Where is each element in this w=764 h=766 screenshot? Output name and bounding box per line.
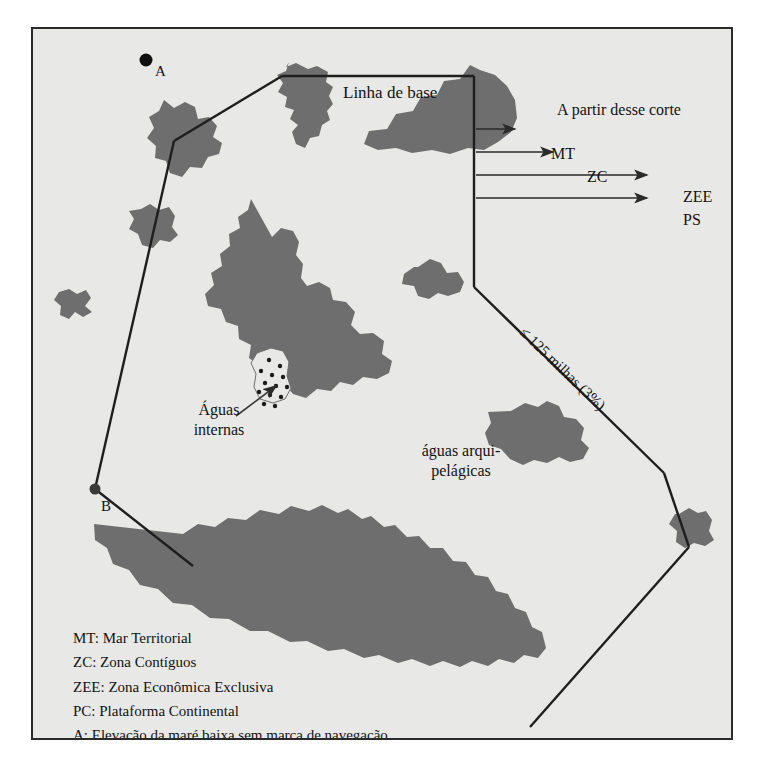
label-a-partir-desse-corte: A partir desse corte: [557, 101, 681, 119]
point-b-marker: [90, 484, 101, 495]
label-aguas-internas-line2: internas: [194, 421, 245, 438]
legend-item-pc: PC: Plataforma Continental: [73, 699, 396, 723]
label-arrow-mt: MT: [551, 145, 575, 163]
point-a-marker: [140, 54, 153, 67]
label-point-b: B: [101, 498, 111, 515]
label-arrow-ps: PS: [683, 211, 701, 229]
southeast-segment: [530, 547, 689, 727]
east-segment: [664, 473, 689, 547]
island-central: [205, 199, 392, 398]
west-segment: [95, 141, 174, 489]
legend: MT: Mar Territorial ZC: Zona Contíguos Z…: [73, 626, 396, 740]
label-aguas-arquipelagicas: águas arqui- pelágicas: [401, 441, 521, 480]
island-top-right: [364, 65, 517, 154]
legend-item-mt: MT: Mar Territorial: [73, 626, 396, 650]
label-arrow-zee: ZEE: [683, 188, 712, 206]
legend-item-a: A: Elevação da maré baixa sem marca de n…: [73, 723, 396, 740]
label-linha-de-base: Linha de base: [343, 83, 437, 103]
figure-canvas: Linha de base A partir desse corte MT ZC…: [0, 0, 764, 766]
zone-arrows: [476, 129, 647, 198]
land-masses: [54, 62, 714, 667]
island-right-vertex: [402, 259, 464, 299]
map-frame: Linha de base A partir desse corte MT ZC…: [31, 27, 733, 740]
island-right-lower: [669, 508, 714, 548]
island-left-lower: [54, 289, 92, 319]
label-aguas-internas: Águas internas: [173, 400, 265, 439]
label-aguas-internas-line1: Águas: [199, 401, 240, 418]
label-aguas-arquipelagicas-line2: pelágicas: [431, 462, 491, 479]
label-aguas-arquipelagicas-line1: águas arqui-: [422, 442, 501, 459]
label-arrow-zc: ZC: [587, 168, 607, 186]
label-point-a: A: [155, 63, 166, 80]
island-left-upper: [147, 100, 222, 177]
legend-item-zee: ZEE: Zona Econômica Exclusiva: [73, 675, 396, 699]
legend-item-zc: ZC: Zona Contíguos: [73, 650, 396, 674]
